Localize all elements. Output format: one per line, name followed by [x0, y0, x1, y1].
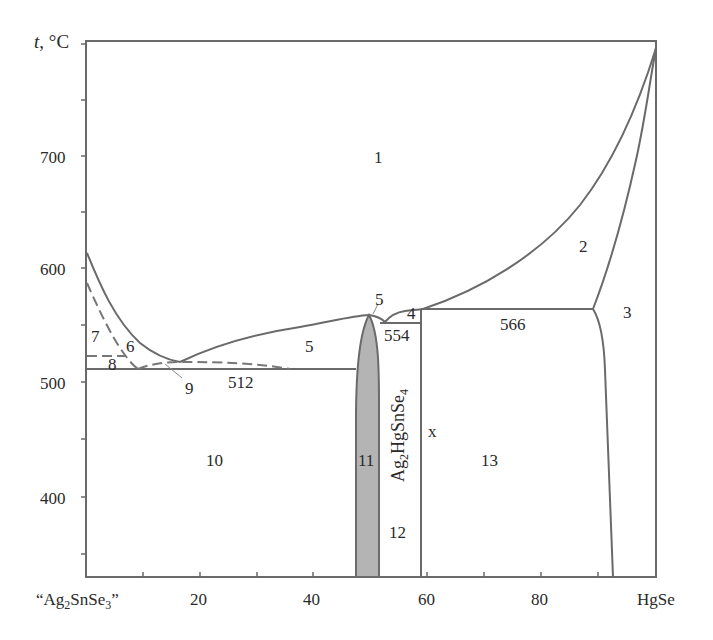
- region-label-2: 2: [579, 237, 588, 256]
- region-label-4: 4: [407, 304, 416, 323]
- solvus-hgse-curve: [593, 309, 613, 577]
- region-label-7: 7: [91, 327, 100, 346]
- pointer-line-9: [165, 364, 182, 378]
- invariant-label-554: 554: [384, 326, 410, 345]
- region-label-5-upper: 5: [375, 290, 384, 309]
- y-tick-400: 400: [40, 489, 66, 508]
- region-label-5-middle: 5: [305, 337, 314, 356]
- invariant-label-566: 566: [500, 315, 526, 334]
- x-tick-60: 60: [418, 590, 435, 609]
- x-tick-left-component: “Ag2SnSe3”: [36, 590, 119, 612]
- region-label-11: 11: [358, 451, 374, 470]
- y-tick-500: 500: [40, 374, 66, 393]
- y-tick-600: 600: [40, 260, 66, 279]
- region-label-10: 10: [206, 451, 223, 470]
- region-label-3: 3: [623, 303, 632, 322]
- x-tick-80: 80: [531, 590, 548, 609]
- x-tick-40: 40: [303, 590, 320, 609]
- region-label-1: 1: [374, 148, 383, 167]
- x-tick-right-component: HgSe: [637, 590, 675, 609]
- region-label-8: 8: [108, 355, 117, 374]
- region-label-12: 12: [389, 523, 406, 542]
- y-axis-title: t, °C: [34, 31, 69, 52]
- phase-diagram: t, °C 700 600 500 400 “Ag2SnSe3” 20 40 6…: [0, 0, 713, 640]
- x-tick-20: 20: [190, 590, 207, 609]
- invariant-label-512: 512: [228, 373, 254, 392]
- region-label-9: 9: [185, 379, 194, 398]
- region-label-13: 13: [481, 451, 498, 470]
- y-tick-700: 700: [40, 148, 66, 167]
- dashed-curve-9: [138, 362, 290, 369]
- compound-label: Ag2HgSnSe4: [388, 389, 411, 482]
- region-label-x: x: [428, 422, 437, 441]
- liquidus-middle-curve: [180, 315, 369, 362]
- phase-11-region: [356, 315, 379, 577]
- solidus-hgse-curve: [593, 48, 656, 309]
- region-label-6: 6: [126, 337, 135, 356]
- curve-region-4: [385, 309, 423, 322]
- liquidus-right-curve: [423, 48, 656, 309]
